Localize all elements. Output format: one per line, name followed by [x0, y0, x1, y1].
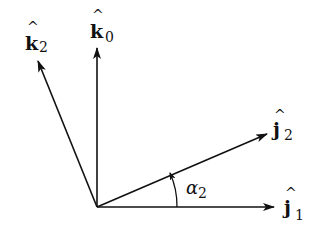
- svg-text:α: α: [186, 177, 198, 198]
- hat-icon: ^: [27, 19, 39, 35]
- label-j1: j ^ 1: [282, 185, 304, 223]
- svg-text:k: k: [90, 20, 104, 42]
- hat-icon: ^: [285, 185, 297, 201]
- svg-text:k: k: [25, 32, 39, 54]
- coordinate-frame-diagram: k ^ 0 k ^ 2 j ^ 2 j ^ 1 α 2: [0, 0, 315, 232]
- angle-arc-alpha2: [170, 173, 177, 207]
- label-alpha2: α 2: [186, 177, 207, 201]
- hat-icon: ^: [92, 7, 104, 23]
- label-k2: k ^ 2: [25, 19, 48, 55]
- vector-k2-arrow: [38, 61, 97, 207]
- label-j2: j ^ 2: [271, 107, 293, 143]
- vector-j2-arrow: [97, 134, 267, 207]
- svg-text:2: 2: [284, 127, 293, 143]
- svg-text:0: 0: [105, 29, 114, 45]
- label-k0: k ^ 0: [90, 7, 114, 45]
- svg-text:1: 1: [295, 207, 304, 223]
- svg-text:2: 2: [198, 185, 207, 201]
- svg-text:2: 2: [39, 39, 48, 55]
- hat-icon: ^: [274, 107, 286, 123]
